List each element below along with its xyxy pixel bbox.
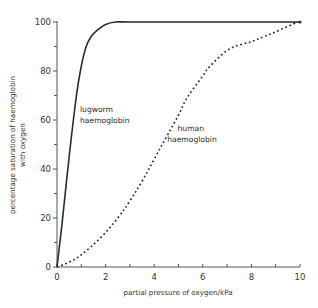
lugworm-haemoglobin-curve	[57, 22, 300, 267]
y-tick-label: 60	[40, 115, 51, 125]
y-tick-label: 20	[40, 213, 51, 223]
curves-end-point	[299, 21, 302, 24]
axes: 020406080100 0246810	[35, 17, 306, 282]
y-tick-label: 80	[40, 66, 51, 76]
human-haemoglobin-curve	[57, 22, 298, 267]
y-axis-ticks: 020406080100	[35, 17, 57, 272]
x-tick-label: 10	[295, 272, 306, 282]
y-axis-title: percentage saturation of haemoglobin wit…	[8, 76, 27, 214]
y-tick-label: 40	[40, 164, 51, 174]
oxygen-dissociation-chart: 020406080100 0246810 lugworm haemoglobin…	[0, 0, 318, 308]
y-axis-title-line-1: percentage saturation of haemoglobin	[8, 76, 17, 214]
x-tick-label: 8	[249, 272, 254, 282]
lugworm-label: lugworm haemoglobin	[80, 105, 130, 125]
x-tick-label: 6	[200, 272, 205, 282]
human-label: human haemoglobin	[167, 124, 217, 144]
y-tick-label: 0	[46, 262, 51, 272]
x-tick-label: 0	[54, 272, 59, 282]
human-label-line-1: human	[178, 124, 205, 133]
human-label-line-2: haemoglobin	[167, 135, 217, 144]
y-tick-label: 100	[35, 17, 51, 27]
x-tick-label: 4	[151, 272, 156, 282]
y-axis-title-line-2: with oxygen	[18, 123, 27, 167]
lugworm-label-line-2: haemoglobin	[80, 116, 130, 125]
lugworm-label-line-1: lugworm	[80, 105, 113, 114]
x-axis-title: partial pressure of oxygen/kPa	[123, 288, 232, 297]
x-tick-label: 2	[103, 272, 108, 282]
